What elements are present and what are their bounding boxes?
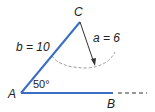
side-b-label: b = 10 (16, 40, 50, 54)
triangle-diagram: C A B b = 10 a = 6 50° (0, 0, 155, 112)
swing-arc (52, 52, 115, 68)
angle-a-label: 50° (33, 78, 50, 90)
vertex-a-label: A (7, 87, 16, 101)
vertex-b-label: B (107, 97, 115, 111)
side-a-arrow (80, 22, 94, 63)
side-b-line (21, 22, 80, 93)
vertex-c-label: C (74, 5, 83, 19)
arrowhead-icon (91, 58, 96, 66)
side-a-label: a = 6 (93, 31, 120, 45)
